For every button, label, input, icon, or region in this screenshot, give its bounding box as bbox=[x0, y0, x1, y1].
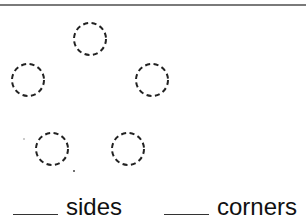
corners-blank[interactable] bbox=[164, 196, 209, 215]
dashed-circle-4 bbox=[36, 133, 68, 165]
dashed-circle-5 bbox=[112, 133, 144, 165]
stray-dot bbox=[23, 138, 25, 140]
sides-label: sides bbox=[66, 193, 122, 220]
sides-blank[interactable] bbox=[13, 196, 58, 215]
stray-dot bbox=[73, 170, 75, 172]
dashed-circles-figure bbox=[0, 0, 306, 224]
corners-answer: corners bbox=[164, 194, 297, 220]
dashed-circle-1 bbox=[74, 23, 106, 55]
dashed-circle-2 bbox=[12, 64, 44, 96]
dashed-circle-3 bbox=[136, 64, 168, 96]
sides-answer: sides bbox=[13, 194, 122, 220]
corners-label: corners bbox=[217, 193, 297, 220]
